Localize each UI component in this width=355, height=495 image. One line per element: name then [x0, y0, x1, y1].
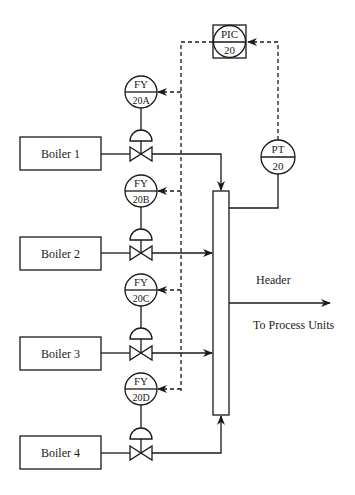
pt-tag-label: PT	[272, 143, 285, 155]
valve-actuator-4-icon	[130, 428, 152, 439]
pic-number-label: 20	[224, 44, 236, 56]
svg-text:FY: FY	[134, 78, 148, 90]
boiler-2-train: Boiler 2 FY 20B	[20, 175, 212, 270]
svg-text:20B: 20B	[133, 194, 150, 205]
boiler-4-label: Boiler 4	[41, 446, 80, 460]
boiler-1-train: Boiler 1 FY 20A	[20, 76, 221, 190]
svg-text:20A: 20A	[132, 95, 150, 106]
svg-text:FY: FY	[134, 375, 148, 387]
outlet-label: To Process Units	[253, 318, 334, 332]
svg-text:20D: 20D	[132, 392, 149, 403]
boiler-3-label: Boiler 3	[41, 347, 80, 361]
steam-header: Header To Process Units	[213, 191, 334, 415]
valve-actuator-2-icon	[130, 229, 152, 240]
boiler-2-label: Boiler 2	[41, 247, 80, 261]
boiler-pressure-control-diagram: PIC 20 PT 20 Header To Process Units Boi…	[0, 0, 355, 495]
boiler-1-label: Boiler 1	[41, 147, 80, 161]
pt-number-label: 20	[273, 160, 285, 172]
svg-text:FY: FY	[134, 276, 148, 288]
pic-20-controller: PIC 20	[213, 25, 246, 58]
boiler-3-train: Boiler 3 FY 20C	[20, 274, 212, 370]
svg-text:20C: 20C	[133, 293, 150, 304]
svg-text:FY: FY	[134, 177, 148, 189]
pic-tag-label: PIC	[221, 28, 238, 40]
boiler-4-train: Boiler 4 FY 20D	[20, 373, 221, 469]
pt-20-transmitter: PT 20	[229, 140, 295, 208]
valve-actuator-3-icon	[130, 328, 152, 339]
valve-actuator-1-icon	[130, 130, 152, 141]
header-label: Header	[256, 273, 291, 287]
